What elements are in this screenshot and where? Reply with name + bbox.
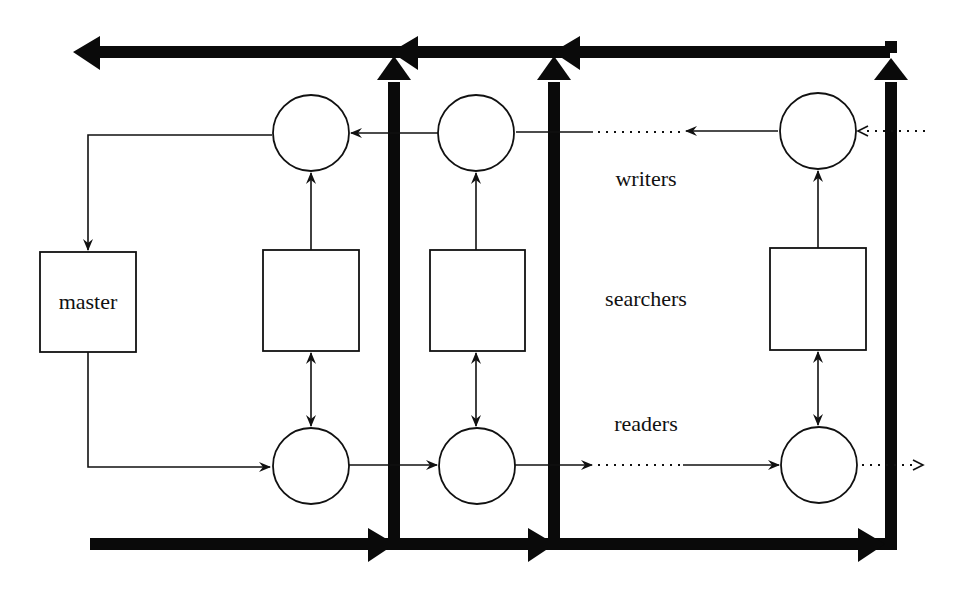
writer-node-3 (780, 93, 856, 169)
top-bus-arrow-left (73, 36, 100, 70)
reader-node-1 (273, 428, 349, 504)
incoming-writer-arrowhead (858, 126, 868, 136)
searcher-box-3 (770, 248, 866, 350)
writer-node-2 (438, 95, 514, 171)
master-group: master (40, 135, 272, 467)
readers-label: readers (614, 411, 678, 436)
searcher-box-2 (430, 250, 525, 351)
process-pipeline-diagram: master writ (0, 0, 963, 590)
outgoing-reader-arrowhead (913, 460, 923, 470)
searcher-box-1 (263, 250, 359, 351)
writers-label: writers (615, 166, 676, 191)
master-label: master (59, 289, 118, 314)
writer-to-master-link (88, 135, 272, 250)
searchers-label: searchers (605, 286, 687, 311)
stage-2 (349, 95, 525, 504)
bottom-bus (90, 528, 890, 562)
reader-node-3 (781, 427, 857, 503)
reader-node-2 (439, 428, 515, 504)
master-to-reader-link (88, 352, 270, 467)
writer-node-1 (273, 95, 349, 171)
stage-1 (263, 95, 359, 504)
stage-3 (770, 93, 925, 503)
riser-3-arrow (874, 58, 908, 80)
bottom-bus-arrow-3 (858, 528, 885, 562)
top-bus (73, 36, 890, 70)
